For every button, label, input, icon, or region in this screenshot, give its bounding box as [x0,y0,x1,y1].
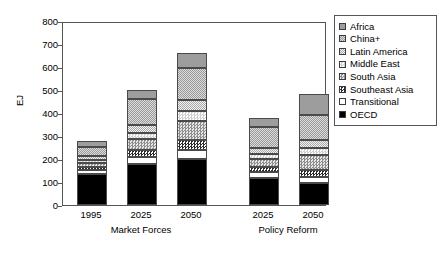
bar-segment [177,68,207,100]
bar-segment [177,159,207,205]
legend-swatch-icon [339,98,346,105]
bar-segment [177,111,207,121]
bar-segment [127,157,157,164]
legend-label: Africa [350,22,374,32]
bar-segment [249,148,279,154]
bar-segment [77,160,107,163]
legend-item[interactable]: Middle East [339,58,432,71]
bar-segment [249,178,279,205]
y-tick-label: 700 [24,40,58,50]
bar-segment [249,159,279,167]
bar-segment [299,140,329,149]
group-label: Market Forces [71,224,211,235]
group-label: Policy Reform [218,224,358,235]
bar [177,53,207,205]
legend-swatch-icon [339,73,346,80]
legend-item[interactable]: Africa [339,20,432,33]
legend-swatch-icon [339,23,346,30]
bar-segment [299,94,329,115]
bar-segment [299,115,329,140]
bar-segment [127,125,157,132]
legend-item[interactable]: Latin America [339,45,432,58]
x-tick-label: 2050 [161,209,221,220]
bar [249,118,279,205]
bar-segment [77,170,107,174]
bar-segment [249,167,279,172]
legend-swatch-icon [339,35,346,42]
bar-segment [127,139,157,150]
bar-segment [127,164,157,205]
y-tick-label: 800 [24,17,58,27]
legend-label: Southeast Asia [350,85,413,95]
bar-segment [299,170,329,177]
bar-segment [127,99,157,125]
bar-segment [77,163,107,167]
legend-item[interactable]: Transitional [339,96,432,109]
y-tick-label: 200 [24,155,58,165]
bar [299,94,329,205]
bar-segment [77,147,107,156]
legend-label: South Asia [350,72,395,82]
bar-segment [177,121,207,140]
bar-segment [299,155,329,170]
y-tick-label: 600 [24,63,58,73]
bar-segment [77,156,107,159]
legend-swatch-icon [339,86,346,93]
legend-label: Middle East [350,59,400,69]
legend: AfricaChina+Latin AmericaMiddle EastSout… [334,15,437,126]
bar [77,141,107,205]
bar-segment [177,150,207,159]
legend-item[interactable]: Southeast Asia [339,83,432,96]
stacked-bar-chart: EJ 8007006005004003002001000 19952025205… [0,0,442,271]
bar-segment [77,167,107,170]
bar-segment [177,140,207,150]
y-tick-label: 300 [24,132,58,142]
bar-segment [177,100,207,111]
bar-segment [77,174,107,205]
y-tick-label: 400 [24,109,58,119]
y-axis: 8007006005004003002001000 [20,22,58,206]
bar-segment [127,133,157,140]
legend-label: Latin America [350,47,408,57]
bar-segment [177,53,207,68]
y-tick-label: 500 [24,86,58,96]
bars-layer [63,23,325,205]
legend-item[interactable]: China+ [339,33,432,46]
x-tick-label: 2050 [283,209,343,220]
legend-item[interactable]: OECD [339,108,432,121]
bar-segment [249,172,279,178]
bar [127,90,157,205]
bar-segment [77,141,107,147]
legend-label: China+ [350,34,380,44]
bar-segment [249,154,279,159]
legend-swatch-icon [339,111,346,118]
bar-segment [127,150,157,157]
legend-swatch-icon [339,48,346,55]
bar-segment [299,183,329,205]
plot-area [62,22,326,206]
y-tick-label: 100 [24,178,58,188]
legend-swatch-icon [339,61,346,68]
bar-segment [249,118,279,127]
bar-segment [299,148,329,155]
legend-item[interactable]: South Asia [339,70,432,83]
y-tick-label: 0 [24,201,58,211]
bar-segment [249,127,279,148]
legend-label: OECD [350,110,377,120]
legend-label: Transitional [350,97,399,107]
y-tick-mark [58,206,62,207]
bar-segment [299,177,329,183]
bar-segment [127,90,157,100]
